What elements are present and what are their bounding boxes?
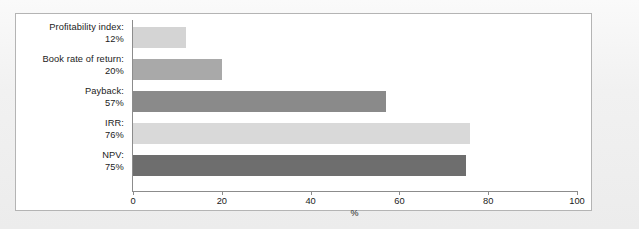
bar-category-name: IRR:	[20, 118, 124, 130]
bar-value-label: 57%	[20, 98, 124, 110]
x-axis-tick-label: 60	[379, 196, 419, 206]
chart-panel: Profitability index:12%Book rate of retu…	[15, 13, 592, 211]
x-axis-tick-label: 80	[468, 196, 508, 206]
bar-category-label: Profitability index:12%	[20, 22, 124, 45]
x-axis-tick-label: 100	[557, 196, 597, 206]
x-axis-tick	[222, 191, 223, 195]
x-axis-tick-label: 0	[113, 196, 153, 206]
x-axis-tick	[488, 191, 489, 195]
bar	[133, 27, 186, 48]
x-axis-tick-label: 40	[291, 196, 331, 206]
plot-area: Profitability index:12%Book rate of retu…	[16, 14, 591, 210]
x-axis-tick	[311, 191, 312, 195]
bar-category-name: Profitability index:	[20, 22, 124, 34]
bar-category-name: NPV:	[20, 150, 124, 162]
bar	[133, 155, 466, 176]
bar-row: Profitability index:12%	[16, 22, 591, 54]
bar-value-label: 12%	[20, 34, 124, 46]
bar-category-label: IRR:76%	[20, 118, 124, 141]
bar-category-label: Book rate of return:20%	[20, 54, 124, 77]
x-axis-tick	[133, 191, 134, 195]
x-axis-title: %	[132, 208, 577, 218]
bar-value-label: 20%	[20, 66, 124, 78]
bar	[133, 59, 222, 80]
bar-category-name: Book rate of return:	[20, 54, 124, 66]
bar-row: Book rate of return:20%	[16, 54, 591, 86]
x-axis-tick	[399, 191, 400, 195]
x-axis-line	[132, 191, 577, 192]
bar-category-label: Payback:57%	[20, 86, 124, 109]
bar	[133, 123, 470, 144]
bar-value-label: 76%	[20, 130, 124, 142]
bar-category-label: NPV:75%	[20, 150, 124, 173]
bar-row: IRR:76%	[16, 118, 591, 150]
bar-value-label: 75%	[20, 162, 124, 174]
x-axis-tick-label: 20	[202, 196, 242, 206]
x-axis-tick	[577, 191, 578, 195]
figure-root: Profitability index:12%Book rate of retu…	[0, 0, 639, 229]
bar-row: NPV:75%	[16, 150, 591, 182]
bar	[133, 91, 386, 112]
bar-row: Payback:57%	[16, 86, 591, 118]
bar-category-name: Payback:	[20, 86, 124, 98]
